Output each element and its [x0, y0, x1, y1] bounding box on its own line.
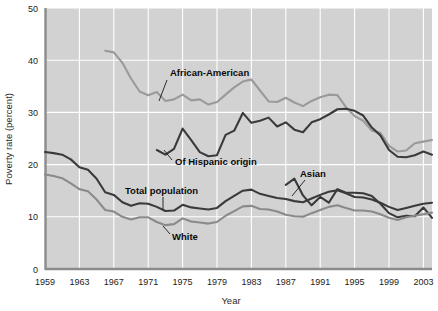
x-tick-label-1959: 1959: [35, 277, 55, 287]
series-label-white: White: [172, 231, 198, 242]
series-label-african-american: African-American: [170, 67, 249, 78]
x-tick-label-2003: 2003: [413, 277, 433, 287]
x-tick-label-1967: 1967: [104, 277, 124, 287]
y-tick-label-20: 20: [28, 160, 38, 170]
x-tick-label-1979: 1979: [207, 277, 227, 287]
chart-canvas: 01020304050 1959196319671971197519791983…: [0, 0, 438, 311]
y-axis-title: Poverty rate (percent): [3, 93, 14, 185]
x-tick-label-1999: 1999: [379, 277, 399, 287]
series-label-asian: Asian: [300, 168, 326, 179]
series-label-total-population: Total population: [125, 185, 198, 196]
x-tick-label-1995: 1995: [345, 277, 365, 287]
y-tick-label-50: 50: [28, 4, 38, 14]
x-tick-label-1987: 1987: [276, 277, 296, 287]
x-tick-label-1971: 1971: [138, 277, 158, 287]
plot-area-background: [45, 8, 432, 270]
x-tick-label-1991: 1991: [310, 277, 330, 287]
x-tick-label-1975: 1975: [173, 277, 193, 287]
y-tick-label-0: 0: [33, 265, 38, 275]
poverty-rate-chart-figure: 01020304050 1959196319671971197519791983…: [0, 0, 438, 311]
y-tick-label-10: 10: [28, 212, 38, 222]
y-tick-labels: 01020304050: [28, 4, 38, 275]
x-axis-title: Year: [221, 295, 240, 306]
x-tick-labels: 1959196319671971197519791983198719911995…: [35, 277, 433, 287]
y-tick-label-30: 30: [28, 108, 38, 118]
y-tick-label-40: 40: [28, 56, 38, 66]
x-tick-label-1963: 1963: [69, 277, 89, 287]
x-tick-label-1983: 1983: [241, 277, 261, 287]
series-label-hispanic: Of Hispanic origin: [175, 156, 257, 167]
